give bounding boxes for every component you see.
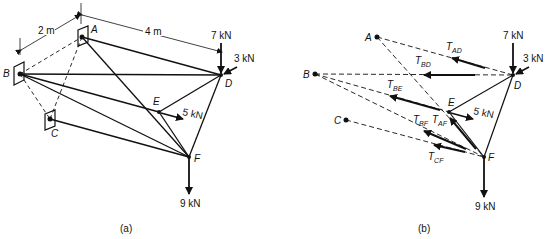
tension-label-af: TAF <box>432 114 448 127</box>
fbd-line-bd <box>315 74 513 75</box>
tension-bf-arrow <box>424 131 466 149</box>
node-label-d-b: D <box>514 80 521 91</box>
member-af <box>82 37 189 157</box>
dim-label-4m: 4 m <box>145 26 162 37</box>
node-label-c-b: C <box>334 115 342 126</box>
tension-label-bd: TBD <box>415 55 431 68</box>
node-label-a: A <box>90 24 98 35</box>
member-de <box>159 75 221 112</box>
node-a-b <box>375 35 380 40</box>
tension-label-cf: TCF <box>428 151 444 164</box>
node-b <box>18 72 23 77</box>
load-5kn-arrow-a <box>161 113 183 119</box>
load-label-7kn-a: 7 kN <box>211 30 232 41</box>
load-label-5kn-a: 5 kN <box>182 106 204 121</box>
fbd-line-ad <box>377 37 513 75</box>
panel-b-labels: A B C D E F 7 kN 3 kN 5 kN 9 kN TAD TBD … <box>303 30 544 234</box>
caption-b: (b) <box>418 223 430 234</box>
member-bd <box>20 74 221 75</box>
node-label-e-b: E <box>448 97 455 108</box>
load-label-9kn-b: 9 kN <box>475 201 496 212</box>
load-3kn-arrow-b <box>516 67 529 74</box>
node-c <box>48 117 53 122</box>
tension-label-ad: TAD <box>446 41 462 54</box>
node-label-e: E <box>153 96 160 107</box>
load-label-3kn-b: 3 kN <box>523 53 544 64</box>
node-b-b <box>313 72 318 77</box>
tension-label-bf: TBF <box>413 114 429 127</box>
node-label-b-b: B <box>303 69 310 80</box>
dim-label-2m: 2 m <box>38 25 55 36</box>
caption-a: (a) <box>120 223 132 234</box>
node-label-a-b: A <box>364 32 372 43</box>
space-truss-figure: 2 m 4 m A B C D E F 7 kN 3 kN 5 kN 9 kN … <box>0 0 549 239</box>
node-label-f-b: F <box>488 152 495 163</box>
node-label-c: C <box>51 128 59 139</box>
edge-ac <box>50 37 82 119</box>
node-e <box>157 110 161 114</box>
tension-ad-arrow <box>452 58 485 68</box>
node-a <box>80 35 85 40</box>
tension-label-be: TBE <box>387 79 403 92</box>
node-c-b <box>344 118 349 123</box>
load-label-5kn-b: 5 kN <box>473 105 495 120</box>
tension-be-arrow <box>390 96 440 110</box>
node-e-b <box>447 110 451 114</box>
load-3kn-arrow-a <box>224 67 237 74</box>
node-label-f: F <box>194 153 201 164</box>
figure-canvas: 2 m 4 m A B C D E F 7 kN 3 kN 5 kN 9 kN … <box>0 0 549 239</box>
node-d <box>219 73 223 77</box>
load-label-7kn-b: 7 kN <box>503 30 524 41</box>
edge-ab <box>20 37 82 74</box>
load-label-3kn-a: 3 kN <box>234 53 255 64</box>
node-d-b <box>511 73 515 77</box>
load-label-9kn-a: 9 kN <box>180 198 201 209</box>
member-ad <box>82 37 221 75</box>
panel-a-labels: 2 m 4 m A B C D E F 7 kN 3 kN 5 kN 9 kN … <box>3 24 255 234</box>
node-label-d: D <box>225 78 232 89</box>
member-be <box>20 74 159 112</box>
node-label-b: B <box>3 68 10 79</box>
